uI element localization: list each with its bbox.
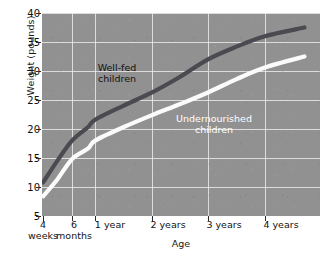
x-axis-title: Age — [42, 238, 320, 249]
annotation-well-fed-line2: children — [98, 73, 136, 84]
x-tick-label-3-years-line1: 3 years — [206, 219, 241, 230]
x-tick-label-3-years: 3 years — [206, 219, 241, 230]
y-tick-mark-5 — [36, 216, 41, 217]
y-tick-label-25: 25 — [6, 95, 40, 106]
y-axis-tick-labels: 40 35 30 25 20 15 10 5 — [0, 0, 40, 255]
y-tick-mark-25 — [36, 100, 41, 101]
x-tick-label-4-years-line1: 4 years — [263, 219, 298, 230]
x-tick-label-1-year-line1: 1 year — [95, 219, 125, 230]
annotation-undernourished-line2: children — [195, 124, 233, 135]
y-tick-mark-35 — [36, 42, 41, 43]
annotation-undernourished-line1: Undernourished — [176, 113, 252, 124]
y-tick-label-35: 35 — [6, 37, 40, 48]
growth-chart: Weight (pounds) 40 35 30 25 20 15 10 5 — [0, 0, 327, 255]
x-tick-label-4-years: 4 years — [263, 219, 298, 230]
annotation-well-fed-line1: Well-fed — [98, 62, 137, 73]
x-tick-label-2-years-line1: 2 years — [150, 219, 185, 230]
y-tick-label-10: 10 — [6, 182, 40, 193]
y-tick-mark-10 — [36, 187, 41, 188]
x-tick-label-4-weeks-line1: 4 — [40, 219, 46, 230]
annotation-well-fed: Well-fed children — [86, 62, 148, 84]
y-tick-mark-30 — [36, 71, 41, 72]
x-tick-label-6-months-line1: 6 — [71, 219, 77, 230]
y-tick-label-15: 15 — [6, 153, 40, 164]
x-tick-label-1-year: 1 year — [95, 219, 125, 230]
y-tick-mark-15 — [36, 158, 41, 159]
y-tick-mark-40 — [36, 13, 41, 14]
x-tick-label-2-years: 2 years — [150, 219, 185, 230]
y-tick-label-40: 40 — [6, 8, 40, 19]
y-tick-label-20: 20 — [6, 124, 40, 135]
annotation-undernourished: Undernourished children — [160, 113, 268, 135]
y-tick-mark-20 — [36, 129, 41, 130]
y-tick-label-30: 30 — [6, 66, 40, 77]
